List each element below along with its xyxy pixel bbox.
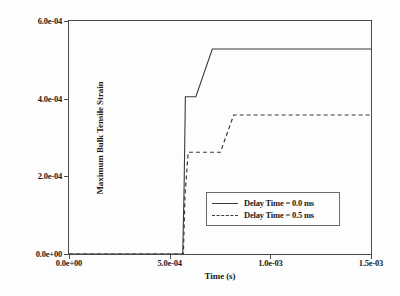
- x-tick-mark: [371, 254, 372, 259]
- legend-swatch-solid-line-icon: [212, 199, 238, 207]
- y-tick-mark: [64, 176, 68, 177]
- series-line-delay-0-5: [69, 115, 371, 254]
- chart-figure: 0.0e+002.0e-044.0e-046.0e-04 0.0e+005.0e…: [0, 0, 400, 296]
- legend-label: Delay Time = 0.5 ms: [244, 210, 314, 220]
- x-tick-label: 5.0e-04: [157, 258, 181, 268]
- x-tick-mark: [270, 254, 271, 259]
- chart-legend: Delay Time = 0.0 ms Delay Time = 0.5 ms: [206, 192, 340, 226]
- x-tick-label: 1.5e-03: [359, 258, 383, 268]
- y-tick-label: 2.0e-04: [38, 171, 62, 181]
- y-tick-mark: [64, 99, 68, 100]
- legend-item-delay-0-5: Delay Time = 0.5 ms: [212, 209, 333, 221]
- x-axis-label: Time (s): [205, 271, 236, 281]
- x-tick-label: 0.0e+00: [56, 258, 82, 268]
- legend-item-delay-0-0: Delay Time = 0.0 ms: [212, 197, 333, 209]
- x-tick-mark: [69, 254, 70, 259]
- legend-swatch-dashed-line-icon: [212, 211, 238, 219]
- legend-label: Delay Time = 0.0 ms: [244, 198, 314, 208]
- y-tick-mark: [64, 254, 68, 255]
- y-tick-mark: [64, 21, 68, 22]
- x-tick-mark: [170, 254, 171, 259]
- y-tick-label: 4.0e-04: [38, 94, 62, 104]
- y-axis-label: Maximum Bulk Tensile Strain: [95, 58, 105, 218]
- x-tick-label: 1.0e-03: [258, 258, 282, 268]
- y-tick-label: 6.0e-04: [38, 16, 62, 26]
